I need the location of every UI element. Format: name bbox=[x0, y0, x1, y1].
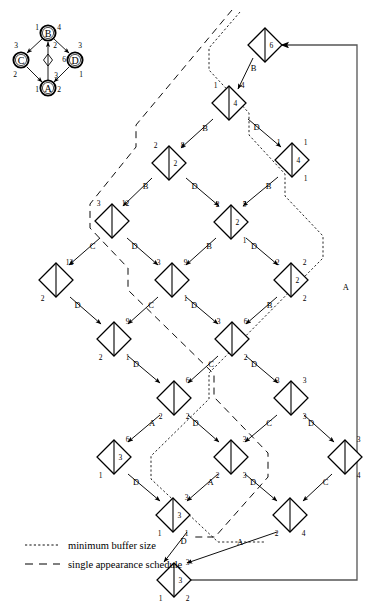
tree-node-n-6: 6 bbox=[248, 28, 282, 62]
tree-node-n-3b-tl: 3 bbox=[276, 376, 280, 385]
edge-B-2-label: B bbox=[202, 123, 208, 133]
node-B: B 1 4 bbox=[35, 23, 61, 41]
tree-node-n-2a-tr: 8 bbox=[181, 141, 185, 150]
edge-D-1-label: D bbox=[253, 122, 259, 132]
tree-node-n-12b-bl: 2 bbox=[41, 294, 45, 303]
tree-node-n-2c-tl: 2 bbox=[276, 258, 280, 267]
edge-C-5: C bbox=[303, 474, 332, 501]
tree-node-n-3f-tr: 3 bbox=[185, 493, 189, 502]
tree-node-n-3g-center: 3 bbox=[179, 576, 183, 585]
tree-node-n-3a-bl: 2 bbox=[159, 412, 163, 421]
tree-node-n-3c-tr: 6 bbox=[126, 435, 130, 444]
node-B-label: B bbox=[45, 28, 52, 39]
tree-node-n-2c-center: 2 bbox=[296, 276, 300, 285]
node-D-port-top: 3 bbox=[78, 41, 82, 50]
tree-node-n-9-tr: 9 bbox=[184, 258, 188, 267]
tree-node-n-2c-tr: 2 bbox=[303, 258, 307, 267]
edge-A-2: A bbox=[187, 474, 218, 501]
tree-node-n-4a-tl: 1 bbox=[214, 81, 218, 90]
edge-C-3: C bbox=[188, 356, 218, 383]
tree-node-n-3g-bl: 1 bbox=[159, 594, 163, 603]
tree-node-n-2a: 228 bbox=[152, 141, 186, 181]
tree-node-n-2b-tr: 5 bbox=[243, 200, 247, 209]
tree-node-n-2a-tl: 2 bbox=[154, 141, 158, 150]
edge-D-3-label: D bbox=[131, 241, 137, 251]
tree-node-n-9b-bl: 2 bbox=[99, 353, 103, 362]
node-B-port-right: 4 bbox=[57, 23, 61, 32]
node-D-label: D bbox=[71, 55, 78, 66]
tree-node-n-4b-center: 4 bbox=[297, 156, 301, 165]
edge-B-6: B bbox=[246, 297, 277, 324]
edge-A-1-label: A bbox=[149, 418, 156, 428]
tree-node-n-9b-tr: 9 bbox=[126, 317, 130, 326]
tree-node-n-3c-center: 3 bbox=[119, 453, 123, 462]
edge-C-1-label: C bbox=[90, 241, 96, 251]
edge-D-13: D bbox=[164, 532, 187, 562]
node-C: C 3 2 bbox=[13, 41, 28, 79]
tree-node-n-6-center: 6 bbox=[270, 41, 274, 50]
edge-B-1-label: B bbox=[251, 63, 257, 73]
edge-B-3: B bbox=[243, 177, 278, 206]
edge-B-2: B bbox=[181, 119, 213, 148]
tree-node-n-3b-tr: 3 bbox=[303, 376, 307, 385]
edge-D-11: D bbox=[128, 474, 160, 501]
edge-D-7: D bbox=[128, 356, 160, 383]
delay-count-label: 6 bbox=[62, 55, 66, 64]
tree-node-n-3f-center: 3 bbox=[178, 511, 182, 520]
edge-D-2: D bbox=[186, 178, 219, 206]
tree-edge-layer: BDBBBDCDBDDCDBDCDADCDDADCDA bbox=[69, 58, 334, 563]
legend-label-single-appearance-schedule: single appearance schedule bbox=[68, 559, 183, 570]
tree-node-n-3d-br: 3 bbox=[243, 471, 247, 480]
edge-delay-A-rate: 3 bbox=[54, 71, 58, 80]
edge-B-3-label: B bbox=[266, 181, 272, 191]
tree-node-n-3d: 323 bbox=[214, 435, 248, 480]
tree-node-n-12a: 312 bbox=[95, 199, 130, 239]
edge-D-8-label: D bbox=[251, 359, 257, 369]
legend: minimum buffer size single appearance sc… bbox=[25, 540, 183, 570]
edge-B-6-label: B bbox=[267, 300, 273, 310]
edge-D-4-label: D bbox=[251, 241, 257, 251]
tree-node-n-4b-br: 1 bbox=[304, 174, 308, 183]
tree-node-n-9-tl: 3 bbox=[157, 258, 161, 267]
edge-B-5-label: B bbox=[206, 241, 212, 251]
tree-node-n-12b-tr: 12 bbox=[66, 258, 74, 267]
edge-D-5-label: D bbox=[74, 300, 80, 310]
tree-node-n-6b: 362 bbox=[215, 317, 249, 362]
application-graph: B 1 4 C 3 2 D 3 1 A 1 2 bbox=[13, 23, 83, 96]
edge-D-3: D bbox=[127, 238, 158, 265]
tree-node-n-9: 391 bbox=[155, 258, 189, 303]
edge-D-6-label: D bbox=[191, 300, 197, 310]
legend-label-minimum-buffer-size: minimum buffer size bbox=[68, 540, 156, 551]
edge-D-8: D bbox=[246, 356, 278, 383]
tree-node-n-3e-tr: 3 bbox=[357, 435, 361, 444]
tree-node-layer: 6414411122831222511223912222921362622333… bbox=[39, 28, 362, 603]
edge-C-1: C bbox=[69, 238, 100, 265]
tree-node-n-4b-tl: 1 bbox=[277, 138, 281, 147]
edge-A-B-rate: 2 bbox=[53, 41, 57, 50]
edge-D-10-label: D bbox=[308, 418, 314, 428]
tree-node-n-12b: 122 bbox=[39, 258, 74, 303]
tree-node-n-3c: 361 bbox=[97, 435, 131, 480]
tree-node-n-2a-center: 2 bbox=[174, 159, 178, 168]
edge-D-5: D bbox=[70, 297, 101, 324]
edge-B-4-label: B bbox=[143, 181, 149, 191]
tree-node-n-2b: 2251 bbox=[214, 200, 248, 245]
edge-D-9: D bbox=[188, 415, 219, 442]
tree-node-n-3a-br: 2 bbox=[186, 412, 190, 421]
tree-node-n-2d-bl: 2 bbox=[275, 529, 279, 538]
node-C-port-top: 3 bbox=[14, 41, 18, 50]
edge-D-6: D bbox=[186, 297, 218, 324]
tree-node-n-2d: 24 bbox=[273, 498, 307, 538]
tree-node-n-3g-br: 2 bbox=[186, 594, 190, 603]
tree-node-n-2c: 2222 bbox=[274, 258, 308, 303]
node-D-port-bottom: 1 bbox=[79, 70, 83, 79]
feedback-edge-label: A bbox=[343, 282, 350, 292]
tree-node-n-4b: 4111 bbox=[275, 138, 309, 183]
tree-node-n-3f-bl: 1 bbox=[158, 529, 162, 538]
tree-node-n-4b-tr: 1 bbox=[304, 138, 308, 147]
edge-C-4-label: C bbox=[266, 418, 272, 428]
tree-node-n-3b: 333 bbox=[274, 376, 308, 421]
edge-D-4: D bbox=[246, 238, 278, 265]
edge-C-3-label: C bbox=[208, 359, 214, 369]
tree-node-n-4a: 414 bbox=[212, 81, 246, 121]
